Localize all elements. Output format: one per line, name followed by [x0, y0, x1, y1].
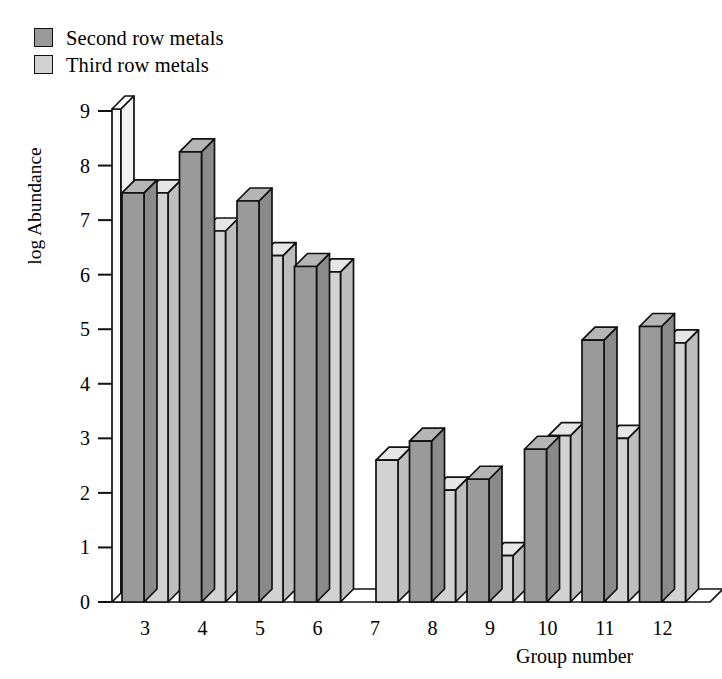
y-tick-label-4: 4	[64, 373, 90, 396]
y-tick-label-7: 7	[64, 209, 90, 232]
bar-second-row-group-5-front	[237, 201, 259, 602]
bar-second-row-group-4-front	[180, 152, 202, 602]
bar-second-row-group-6	[295, 253, 330, 602]
y-tick-label-3: 3	[64, 427, 90, 450]
x-tick-label-12: 12	[643, 617, 683, 640]
y-axis-label: log Abundance	[24, 136, 46, 276]
bar-second-row-group-12-side	[662, 313, 675, 602]
x-tick-label-9: 9	[470, 617, 510, 640]
bar-third-row-group-7	[376, 447, 411, 602]
x-tick-label-7: 7	[355, 617, 395, 640]
bar-second-row-group-6-front	[295, 266, 317, 602]
bar-second-row-group-9	[467, 466, 502, 602]
plot-area: 0123456789 3456789101112 log Abundance G…	[0, 0, 722, 679]
bar-second-row-group-11-side	[604, 327, 617, 602]
bar-second-row-group-9-front	[467, 479, 489, 602]
bar-second-row-group-8	[410, 428, 445, 602]
bar-second-row-group-5-side	[259, 188, 272, 602]
bar-second-row-group-11	[582, 327, 617, 602]
bar-second-row-group-8-side	[432, 428, 445, 602]
y-tick-label-5: 5	[64, 318, 90, 341]
x-tick-label-11: 11	[585, 617, 625, 640]
x-tick-label-5: 5	[240, 617, 280, 640]
x-tick-label-3: 3	[125, 617, 165, 640]
bar-second-row-group-9-side	[489, 466, 502, 602]
x-tick-label-10: 10	[528, 617, 568, 640]
bar-second-row-group-5	[237, 188, 272, 602]
bar-second-row-group-10-front	[525, 449, 547, 602]
y-axis-wall-front	[112, 109, 121, 602]
bar-second-row-group-8-front	[410, 441, 432, 602]
bar-second-row-group-12	[640, 313, 675, 602]
x-tick-label-6: 6	[298, 617, 338, 640]
bar-second-row-group-3-front	[122, 193, 144, 602]
bar-second-row-group-12-front	[640, 326, 662, 602]
bar-second-row-group-11-front	[582, 340, 604, 602]
bar-second-row-group-4	[180, 139, 215, 602]
bar-third-row-group-6-side	[341, 259, 354, 602]
bar-third-row-group-12-side	[686, 330, 699, 602]
bar-second-row-group-3	[122, 180, 157, 602]
chart-root: Second row metals Third row metals 01234…	[0, 0, 722, 679]
y-tick-label-1: 1	[64, 536, 90, 559]
y-tick-label-0: 0	[64, 591, 90, 614]
bar-second-row-group-10-side	[547, 436, 560, 602]
y-tick-label-2: 2	[64, 482, 90, 505]
bar-second-row-group-4-side	[202, 139, 215, 602]
x-tick-label-8: 8	[413, 617, 453, 640]
bar-second-row-group-6-side	[317, 253, 330, 602]
y-tick-label-8: 8	[64, 155, 90, 178]
bar-third-row-group-7-front	[376, 460, 398, 602]
y-tick-label-6: 6	[64, 264, 90, 287]
bar-second-row-group-10	[525, 436, 560, 602]
axis-frame	[0, 0, 722, 679]
y-tick-label-9: 9	[64, 100, 90, 123]
x-tick-label-4: 4	[183, 617, 223, 640]
bar-group	[122, 139, 699, 602]
bar-second-row-group-3-side	[144, 180, 157, 602]
x-axis-label: Group number	[516, 645, 633, 668]
